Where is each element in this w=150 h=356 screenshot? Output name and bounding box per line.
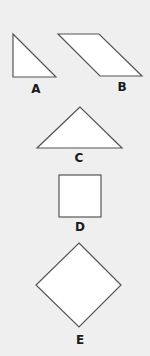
shape-b-parallelogram bbox=[58, 34, 142, 76]
shape-b-label: B bbox=[117, 80, 126, 94]
shape-c-isosceles-triangle bbox=[37, 107, 122, 148]
shape-d-group: D bbox=[59, 175, 101, 234]
shape-d-label: D bbox=[75, 220, 85, 234]
shape-e-rhombus bbox=[36, 243, 121, 327]
shapes-figure: A B C D E bbox=[0, 0, 150, 356]
diagram-canvas: A B C D E bbox=[0, 0, 150, 356]
shape-e-label: E bbox=[76, 333, 84, 347]
shape-c-label: C bbox=[75, 151, 84, 165]
shape-b-group: B bbox=[58, 34, 142, 94]
shape-a-label: A bbox=[31, 82, 41, 96]
shape-d-square bbox=[59, 175, 101, 217]
shape-a-group: A bbox=[13, 34, 56, 96]
shape-c-group: C bbox=[37, 107, 122, 165]
shape-e-group: E bbox=[36, 243, 121, 347]
shape-a-right-triangle bbox=[13, 34, 56, 77]
